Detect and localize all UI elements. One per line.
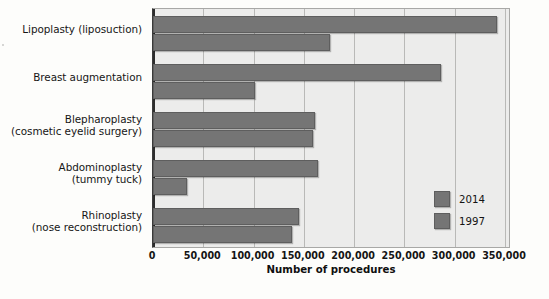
category-label-line: (cosmetic eyelid surgery) xyxy=(0,125,142,137)
category-label-line: Blepharoplasty xyxy=(0,113,142,125)
category-label: Abdominoplasty(tummy tuck) xyxy=(0,161,142,185)
category-label-line: Rhinoplasty xyxy=(0,209,142,221)
legend-swatch-icon xyxy=(434,213,450,229)
x-tick-label: 0 xyxy=(149,250,156,261)
legend-swatch-icon xyxy=(434,191,450,207)
category-label-line: Abdominoplasty xyxy=(0,161,142,173)
category-label: Breast augmentation xyxy=(0,71,142,83)
x-axis-tick-labels: 050,000100,000150,000200,000250,000300,0… xyxy=(0,250,549,264)
x-tick-label: 150,000 xyxy=(281,250,325,261)
legend-label: 2014 xyxy=(459,194,485,205)
bar-1997-group-2 xyxy=(153,130,313,147)
category-label: Blepharoplasty(cosmetic eyelid surgery) xyxy=(0,113,142,137)
legend: 20141997 xyxy=(434,188,504,232)
category-label-line: Breast augmentation xyxy=(0,71,142,83)
bar-1997-group-1 xyxy=(153,82,255,99)
legend-label: 1997 xyxy=(459,216,485,227)
bar-2014-group-2 xyxy=(153,112,315,129)
bar-1997-group-3 xyxy=(153,178,187,195)
legend-item: 2014 xyxy=(434,188,504,210)
bar-2014-group-0 xyxy=(153,16,497,33)
x-tick-label: 200,000 xyxy=(331,250,375,261)
bar-2014-group-1 xyxy=(153,64,441,81)
bar-2014-group-4 xyxy=(153,208,299,225)
bar-2014-group-3 xyxy=(153,160,318,177)
category-axis-labels: Lipoplasty (liposuction)Breast augmentat… xyxy=(0,8,148,248)
legend-item: 1997 xyxy=(434,210,504,232)
category-label-line: (tummy tuck) xyxy=(0,173,142,185)
bar-chart: Lipoplasty (liposuction)Breast augmentat… xyxy=(0,0,549,299)
x-tick-label: 300,000 xyxy=(432,250,476,261)
gridline xyxy=(354,9,355,247)
x-tick-label: 100,000 xyxy=(231,250,275,261)
gridline xyxy=(505,9,506,247)
gridline xyxy=(404,9,405,247)
bar-1997-group-0 xyxy=(153,34,330,51)
category-label-line: (nose reconstruction) xyxy=(0,221,142,233)
x-tick-label: 50,000 xyxy=(184,250,221,261)
x-tick-label: 350,000 xyxy=(482,250,526,261)
x-axis-title: Number of procedures xyxy=(152,264,510,275)
category-label: Lipoplasty (liposuction) xyxy=(0,23,142,35)
bar-1997-group-4 xyxy=(153,226,292,243)
category-label-line: Lipoplasty (liposuction) xyxy=(0,23,142,35)
category-label: Rhinoplasty(nose reconstruction) xyxy=(0,209,142,233)
x-tick-label: 250,000 xyxy=(382,250,426,261)
